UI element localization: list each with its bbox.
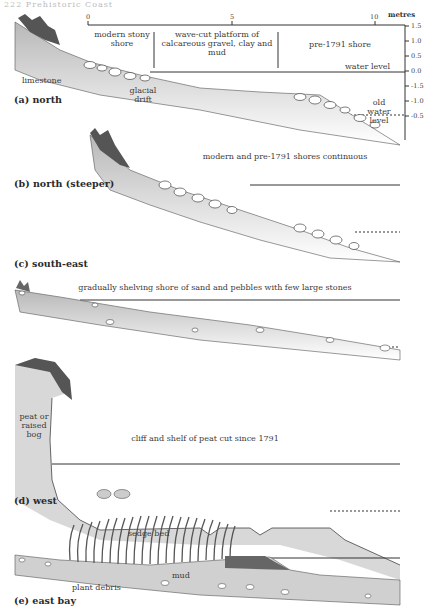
y-tick: 0.5: [411, 52, 421, 60]
y-tick: -1.0: [411, 97, 424, 105]
caption-d: cliff and shelf of peat cut since 1791: [130, 434, 280, 443]
caption-c: gradually shelving shore of sand and peb…: [70, 283, 360, 292]
x-tick-10: 10: [370, 13, 378, 21]
axis-unit-label: metres: [388, 10, 415, 19]
panel-label-b: (b) north (steeper): [14, 178, 114, 189]
y-tick: -1.5: [411, 82, 424, 90]
y-tick: 0.0: [411, 67, 421, 75]
panel-label-e: (e) east bay: [14, 595, 76, 606]
y-tick: 1.0: [411, 37, 421, 45]
label-water-level: water level: [345, 62, 390, 71]
label-peat-or-raised-bog: peat or raised bog: [18, 412, 50, 439]
zone-modern-stony-shore: modern stony shore: [92, 30, 152, 48]
panel-label-c: (c) south-east: [14, 258, 88, 269]
label-old-water-level: old water level: [360, 98, 398, 125]
panel-label-d: (d) west: [14, 495, 57, 506]
label-mud: mud: [172, 571, 190, 580]
label-plant-debris: plant debris: [72, 583, 121, 592]
x-tick-5: 5: [230, 13, 234, 21]
y-tick: 1.5: [411, 22, 421, 30]
label-glacial-drift: glacial drift: [128, 86, 158, 104]
zone-pre-1791-shore: pre-1791 shore: [285, 40, 395, 49]
zone-wave-cut-platform: wave-cut platform of calcareous gravel, …: [160, 30, 274, 57]
panel-label-a: (a) north: [14, 94, 62, 105]
label-sedge-bed: sedge bed: [128, 529, 169, 538]
caption-b: modern and pre-1791 shores continuous: [185, 152, 385, 161]
label-limestone: limestone: [22, 76, 61, 85]
y-tick: -0.5: [411, 112, 424, 120]
x-tick-0: 0: [86, 13, 90, 21]
